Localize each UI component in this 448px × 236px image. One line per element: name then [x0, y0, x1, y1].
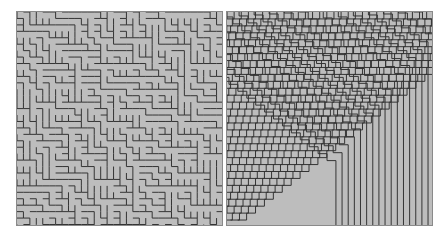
maze-pattern-panel: Random labyrinth maze pattern	[16, 11, 223, 226]
stripe-pattern-image	[227, 12, 432, 225]
stripe-pattern-panel: Concentric staircase stripe pattern	[226, 11, 433, 226]
maze-pattern-image	[17, 12, 222, 225]
